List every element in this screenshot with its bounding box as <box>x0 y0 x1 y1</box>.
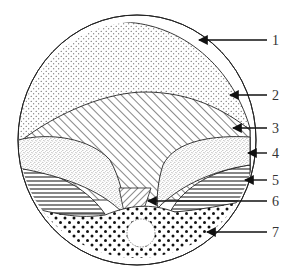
callout-label-6: 6 <box>272 194 279 209</box>
callout-label-7: 7 <box>272 225 279 240</box>
callout-label-5: 5 <box>272 173 279 188</box>
callout-label-4: 4 <box>272 146 279 161</box>
callout-label-2: 2 <box>272 88 279 103</box>
cross-section-diagram: 1 2 3 4 5 6 7 <box>0 0 298 277</box>
callout-label-3: 3 <box>272 121 279 136</box>
callout-label-1: 1 <box>272 33 279 48</box>
central-hole <box>127 219 155 247</box>
